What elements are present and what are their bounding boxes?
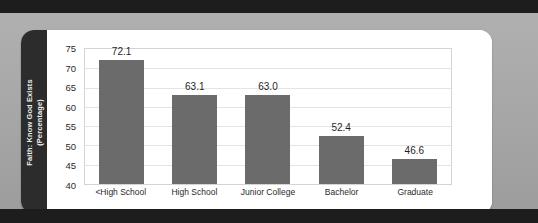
y-tick-label: 70 — [65, 62, 76, 73]
y-axis-title: Faith: Know God Exists (Percentage) — [25, 79, 44, 165]
y-axis-title-line-2: (Percentage) — [34, 79, 44, 165]
bar-slot: 72.1 — [85, 49, 158, 184]
bar[interactable]: 46.6 — [392, 159, 437, 184]
bar-value-label: 63.0 — [258, 81, 277, 92]
plot-area: 72.1 63.1 63.0 — [84, 48, 452, 185]
bottom-dark-strip — [0, 209, 538, 223]
bar-value-label: 52.4 — [331, 122, 350, 133]
bar-value-label: 46.6 — [405, 145, 424, 156]
x-tick-label: Bachelor — [305, 187, 379, 203]
top-dark-strip — [0, 0, 538, 13]
y-tick-label: 55 — [65, 121, 76, 132]
document-page-background: Faith: Know God Exists (Percentage) 75 7… — [0, 13, 538, 209]
bar[interactable]: 72.1 — [99, 60, 144, 184]
y-axis-tick-labels: 75 70 65 60 55 50 45 40 — [47, 48, 80, 185]
x-tick-label: High School — [158, 187, 232, 203]
y-tick-label: 50 — [65, 140, 76, 151]
y-tick-label: 45 — [65, 160, 76, 171]
bar-value-label: 63.1 — [185, 81, 204, 92]
bar[interactable]: 63.1 — [172, 95, 217, 184]
bar[interactable]: 52.4 — [319, 136, 364, 184]
chart-plot-region: 75 70 65 60 55 50 45 40 — [47, 30, 492, 214]
y-tick-label: 40 — [65, 180, 76, 191]
x-tick-label: <High School — [84, 187, 158, 203]
bar-slot: 46.6 — [378, 49, 451, 184]
bar-value-label: 72.1 — [112, 46, 131, 57]
bar-series: 72.1 63.1 63.0 — [85, 49, 451, 184]
x-tick-label: Graduate — [378, 187, 452, 203]
bar-slot: 52.4 — [305, 49, 378, 184]
x-tick-label: Junior College — [231, 187, 305, 203]
y-tick-label: 60 — [65, 101, 76, 112]
screenshot-page: Faith: Know God Exists (Percentage) 75 7… — [0, 0, 538, 223]
bar[interactable]: 63.0 — [245, 95, 290, 184]
bar-slot: 63.0 — [231, 49, 304, 184]
y-tick-label: 75 — [65, 43, 76, 54]
x-axis-tick-labels: <High School High School Junior College … — [84, 187, 452, 203]
chart-card: Faith: Know God Exists (Percentage) 75 7… — [21, 30, 492, 214]
bar-slot: 63.1 — [158, 49, 231, 184]
y-axis-title-line-1: Faith: Know God Exists — [25, 79, 34, 165]
y-tick-label: 65 — [65, 82, 76, 93]
y-axis-title-band: Faith: Know God Exists (Percentage) — [21, 30, 47, 214]
